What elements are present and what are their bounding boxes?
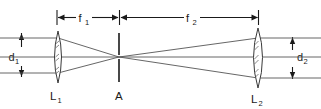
f2-label-subscript: 2: [193, 18, 197, 27]
diverging-ray-top: [119, 38, 258, 57]
f1-arrowhead-left: [58, 15, 65, 21]
dimension-f2: f 2: [121, 10, 259, 27]
diverging-ray-bundle: [119, 38, 258, 78]
lens-2-label: L: [251, 93, 258, 105]
f1-arrowhead-right: [112, 15, 119, 21]
f2-label: f: [186, 12, 190, 24]
dimension-f1: f 1: [57, 10, 120, 27]
converging-ray-top: [58, 38, 119, 57]
aperture-label: A: [115, 90, 123, 102]
diagram-canvas: f 1 f 2: [0, 0, 321, 109]
lens-1-label: L: [50, 90, 57, 102]
dimension-d2: d 2: [290, 37, 308, 79]
diverging-ray-bottom: [119, 57, 258, 78]
d2-label-subscript: 2: [304, 57, 308, 66]
f1-label: f: [79, 12, 83, 24]
lens-2-body: [254, 28, 263, 88]
dimension-d1: d 1: [9, 33, 25, 77]
d1-label-subscript: 1: [15, 57, 19, 66]
f2-arrowhead-left: [121, 15, 128, 21]
d2-arrowhead-top: [290, 38, 295, 45]
output-ray-bundle: [258, 38, 321, 78]
d2-arrowhead-bottom: [290, 72, 295, 79]
component-labels: L 1 A L 2: [50, 90, 263, 108]
lens-2: [254, 28, 263, 88]
d1-arrowhead-top: [19, 34, 24, 41]
optical-ray-diagram: f 1 f 2: [0, 0, 321, 109]
lens-1-label-subscript: 1: [58, 96, 62, 105]
lens-2-label-subscript: 2: [259, 99, 263, 108]
f2-arrowhead-right: [252, 15, 259, 21]
converging-ray-bottom: [58, 57, 119, 73]
converging-ray-bundle: [58, 38, 119, 73]
f1-label-subscript: 1: [85, 18, 89, 27]
